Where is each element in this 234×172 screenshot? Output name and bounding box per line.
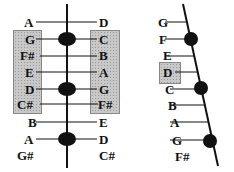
left-note-label: B bbox=[28, 116, 37, 129]
left-note-label: A bbox=[24, 16, 33, 29]
right-note-label: A bbox=[99, 66, 108, 79]
slanted-note-label: B bbox=[168, 99, 177, 112]
slanted-note-label: G bbox=[158, 16, 168, 29]
right-note-label: B bbox=[99, 49, 108, 62]
left-note-label: E bbox=[25, 66, 34, 79]
slanted-note-label: G bbox=[172, 134, 182, 147]
left-note-label: G# bbox=[17, 149, 34, 162]
slanted-note-label: D bbox=[163, 66, 172, 79]
slanted-note-label: A bbox=[170, 116, 179, 129]
diagram-lines bbox=[0, 0, 234, 172]
right-note-label: C bbox=[99, 33, 108, 46]
left-note-label: A bbox=[24, 133, 33, 146]
right-note-label: G bbox=[99, 83, 109, 96]
slanted-note-label: F bbox=[159, 33, 167, 46]
slanted-note-label: F# bbox=[175, 150, 189, 163]
right-note-label: D bbox=[99, 133, 108, 146]
right-note-label: F# bbox=[98, 98, 112, 111]
slanted-note-label: E bbox=[163, 49, 172, 62]
left-note-label: C# bbox=[17, 98, 33, 111]
right-note-label: C# bbox=[99, 149, 115, 162]
right-note-label: D bbox=[99, 16, 108, 29]
left-note-label: G bbox=[25, 33, 35, 46]
slanted-note-label: C bbox=[165, 83, 174, 96]
left-note-label: F# bbox=[20, 49, 34, 62]
right-note-label: E bbox=[99, 116, 108, 129]
left-note-label: D bbox=[25, 83, 34, 96]
